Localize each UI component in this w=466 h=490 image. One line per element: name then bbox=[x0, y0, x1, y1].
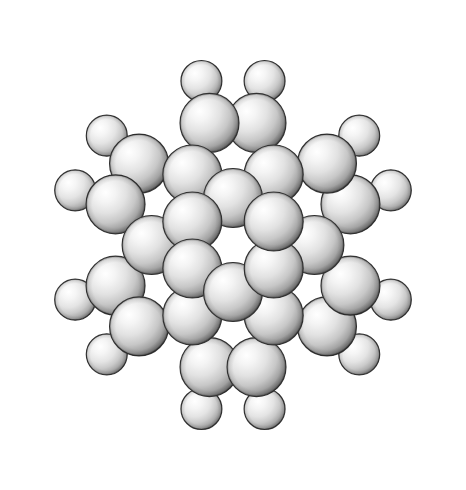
rim-carbon-atom-sphere-rim-shade bbox=[227, 338, 286, 397]
rim-carbon-atom-sphere-rim-shade bbox=[297, 134, 356, 193]
inner-carbon-atom-sphere-rim-shade bbox=[244, 192, 303, 251]
molecule-figure: Coronene C24H12 bbox=[0, 0, 466, 490]
rim-carbon-atom-sphere bbox=[227, 338, 286, 397]
figure-background bbox=[0, 0, 466, 490]
rim-carbon-atom-sphere-rim-shade bbox=[110, 297, 169, 356]
rim-carbon-atom-sphere bbox=[110, 297, 169, 356]
space-filling-molecule-diagram bbox=[0, 0, 466, 490]
inner-carbon-atom-sphere bbox=[244, 192, 303, 251]
rim-carbon-atom-sphere-rim-shade bbox=[180, 93, 239, 152]
rim-carbon-atom-sphere bbox=[180, 93, 239, 152]
rim-carbon-atom-sphere bbox=[297, 134, 356, 193]
